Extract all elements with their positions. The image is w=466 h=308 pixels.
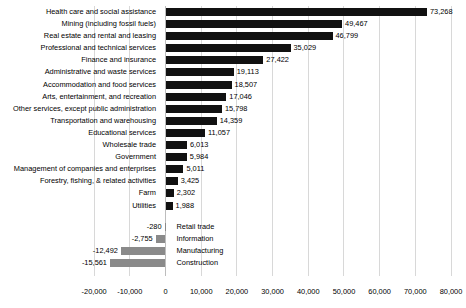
x-tick-label: 40,000 — [297, 286, 320, 298]
plot-area: Health care and social assistance73,268M… — [0, 0, 466, 282]
bar-row: -12,492Manufacturing — [0, 245, 466, 257]
bar — [166, 165, 184, 173]
bar-row: Accommodation and food services18,507 — [0, 79, 466, 91]
bar-rows: Health care and social assistance73,268M… — [0, 6, 466, 269]
bar — [166, 177, 178, 185]
bar — [166, 117, 217, 125]
bar-value-label: -15,561 — [82, 257, 110, 269]
bar — [110, 259, 166, 267]
bar — [166, 32, 333, 40]
bar — [166, 129, 205, 137]
bar — [166, 202, 173, 210]
bar — [166, 56, 264, 64]
category-label: Forestry, fishing, & related activities — [0, 175, 160, 187]
x-tick-label: 30,000 — [261, 286, 284, 298]
bar-row: Mining (including fossil fuels)49,467 — [0, 18, 466, 30]
bar — [166, 20, 343, 28]
category-label: Other services, except public administra… — [0, 103, 160, 115]
x-tick-label: 80,000 — [440, 286, 463, 298]
bar-value-label: 27,422 — [263, 54, 289, 66]
category-label: Construction — [166, 257, 219, 269]
category-label: Mining (including fossil fuels) — [0, 18, 160, 30]
bar-value-label: 14,359 — [217, 115, 243, 127]
bar-row: Transportation and warehousing14,359 — [0, 115, 466, 127]
bar-value-label: -12,492 — [93, 245, 121, 257]
bar-value-label: 11,057 — [205, 127, 230, 139]
bar-row: Other services, except public administra… — [0, 103, 466, 115]
bar-value-label: 3,425 — [178, 175, 200, 187]
category-label: Finance and insurance — [0, 54, 160, 66]
category-label: Information — [166, 233, 214, 245]
bar — [166, 105, 222, 113]
category-label: Arts, entertainment, and recreation — [0, 91, 160, 103]
category-label: Educational services — [0, 127, 160, 139]
bar-row: Educational services11,057 — [0, 127, 466, 139]
category-label: Administrative and waste services — [0, 66, 160, 78]
bar — [166, 189, 174, 197]
bar-value-label: 18,507 — [232, 79, 258, 91]
category-label: Manufacturing — [166, 245, 224, 257]
category-label: Real estate and rental and leasing — [0, 30, 160, 42]
bar-row: -2,755Information — [0, 233, 466, 245]
x-tick-label: 60,000 — [368, 286, 391, 298]
bar-row: Finance and insurance27,422 — [0, 54, 466, 66]
bar-row: Arts, entertainment, and recreation17,04… — [0, 91, 466, 103]
bar-row: Administrative and waste services19,113 — [0, 66, 466, 78]
bar-row: Real estate and rental and leasing46,799 — [0, 30, 466, 42]
bar-chart: Health care and social assistance73,268M… — [0, 0, 466, 308]
bar — [156, 235, 166, 243]
bar-value-label: 5,984 — [187, 151, 209, 163]
bar-row: Wholesale trade6,013 — [0, 139, 466, 151]
bar — [166, 141, 187, 149]
bar-row: Utilities1,988 — [0, 200, 466, 212]
x-tick-label: 0 — [163, 286, 167, 298]
bar-value-label: 73,268 — [427, 6, 453, 18]
bar — [166, 93, 227, 101]
category-label: Professional and technical services — [0, 42, 160, 54]
category-label: Government — [0, 151, 160, 163]
bar-value-label: -280 — [147, 221, 165, 233]
bar — [166, 8, 427, 16]
bar — [121, 247, 166, 255]
bar-value-label: 19,113 — [234, 66, 259, 78]
bar — [166, 153, 187, 161]
bar-value-label: 5,011 — [183, 163, 204, 175]
category-label: Wholesale trade — [0, 139, 160, 151]
x-axis: -20,000-10,000010,00020,00030,00040,0005… — [0, 286, 466, 302]
category-label: Retail trade — [166, 221, 215, 233]
bar-value-label: 35,029 — [291, 42, 317, 54]
bar-value-label: 1,988 — [173, 200, 195, 212]
bar-value-label: 15,798 — [222, 103, 248, 115]
bar-row: Management of companies and enterprises5… — [0, 163, 466, 175]
category-label: Farm — [0, 187, 160, 199]
bar-value-label: 49,467 — [342, 18, 368, 30]
bar-value-label: 6,013 — [187, 139, 209, 151]
bar-row: Farm2,302 — [0, 187, 466, 199]
bar-row: Forestry, fishing, & related activities3… — [0, 175, 466, 187]
x-tick-label: -20,000 — [82, 286, 107, 298]
bar-value-label: 2,302 — [174, 187, 196, 199]
x-tick-label: 70,000 — [404, 286, 427, 298]
x-tick-label: -10,000 — [117, 286, 142, 298]
bar-value-label: 17,046 — [226, 91, 252, 103]
bar-row: Health care and social assistance73,268 — [0, 6, 466, 18]
bar-row: Professional and technical services35,02… — [0, 42, 466, 54]
bar-row: -15,561Construction — [0, 257, 466, 269]
bar — [166, 68, 234, 76]
x-tick-label: 20,000 — [226, 286, 249, 298]
bar-value-label: 46,799 — [333, 30, 359, 42]
category-label: Accommodation and food services — [0, 79, 160, 91]
category-label: Health care and social assistance — [0, 6, 160, 18]
category-label: Management of companies and enterprises — [0, 163, 160, 175]
x-tick-label: 10,000 — [190, 286, 213, 298]
bar-row: Government5,984 — [0, 151, 466, 163]
x-tick-label: 50,000 — [333, 286, 356, 298]
bar — [166, 81, 232, 89]
category-label: Utilities — [0, 200, 160, 212]
category-label: Transportation and warehousing — [0, 115, 160, 127]
bar-value-label: -2,755 — [132, 233, 156, 245]
bar-row: -280Retail trade — [0, 221, 466, 233]
bar — [166, 44, 291, 52]
